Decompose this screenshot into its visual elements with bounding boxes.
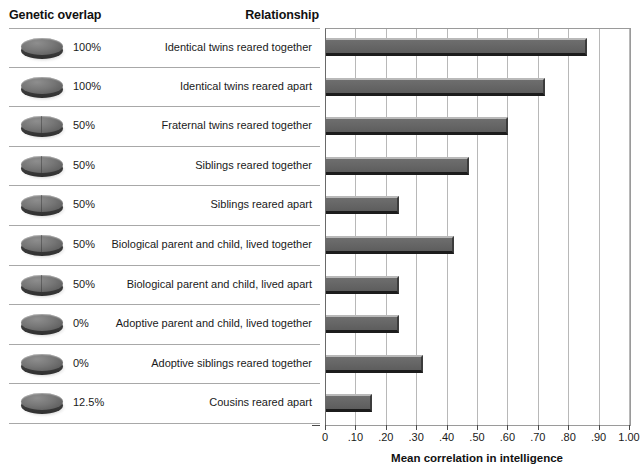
genetic-overlap-coin-icon [20,233,66,259]
genetic-overlap-value: 50% [73,238,95,250]
axis-tick [507,425,508,430]
coin-top [21,275,63,292]
relationship-label: Biological parent and child, lived apart [127,278,312,290]
genetic-overlap-coin-icon [20,36,66,62]
axis-tick [355,425,356,430]
coin-split-line [41,275,42,292]
genetic-overlap-coin-icon [20,352,66,378]
genetic-overlap-coin-icon [20,391,66,417]
coin-top [21,354,63,371]
genetic-overlap-coin-icon [20,193,66,219]
bar [326,355,423,373]
x-axis-title: Mean correlation in intelligence [325,452,629,464]
header-genetic-overlap: Genetic overlap [9,8,101,22]
axis-tick-label: .80 [561,431,576,443]
coin-top [21,156,63,173]
bar [326,38,587,56]
genetic-overlap-value: 100% [73,41,101,53]
bar [326,394,372,412]
bar [326,315,399,333]
relationship-label: Adoptive siblings reared together [151,357,312,369]
relationship-label: Adoptive parent and child, lived togethe… [116,317,312,329]
axis-tick [477,425,478,430]
genetic-overlap-coin-icon [20,154,66,180]
relationship-label: Siblings reared apart [210,198,312,210]
bar [326,196,399,214]
table-row: 50%Biological parent and child, lived to… [9,226,320,266]
bar-row [326,385,630,425]
axis-tick-label: .90 [591,431,606,443]
table-row: 50%Siblings reared together [9,147,320,187]
axis-tick-label: .20 [378,431,393,443]
genetic-overlap-coin-icon [20,114,66,140]
relationship-table: 100%Identical twins reared together100%I… [9,28,320,424]
x-axis-tick-labels: 0.10.20.30.40.50.60.70.80.901.00 [0,431,641,449]
genetic-overlap-value: 50% [73,119,95,131]
bar-row [326,148,630,188]
bar [326,236,454,254]
table-row: 100%Identical twins reared together [9,28,320,68]
bar [326,157,469,175]
table-row: 12.5%Cousins reared apart [9,384,320,424]
table-row: 100%Identical twins reared apart [9,68,320,108]
bar [326,276,399,294]
genetic-overlap-value: 0% [73,357,89,369]
relationship-label: Fraternal twins reared together [162,119,312,131]
relationship-label: Identical twins reared apart [180,80,312,92]
bar-row [326,346,630,386]
axis-tick-label: 1.00 [618,431,639,443]
bar-row [326,29,630,69]
genetic-overlap-coin-icon [20,75,66,101]
bar-chart-plot-area [325,28,631,426]
bar-row [326,227,630,267]
axis-origin-dash [312,425,320,426]
genetic-overlap-value: 12.5% [73,396,104,408]
genetic-overlap-value: 50% [73,198,95,210]
axis-tick [538,425,539,430]
axis-tick [416,425,417,430]
axis-tick-label: .40 [439,431,454,443]
axis-tick-label: .60 [500,431,515,443]
relationship-label: Siblings reared together [195,159,312,171]
coin-top [21,235,63,252]
intelligence-correlation-figure: Genetic overlap Relationship 100%Identic… [0,0,641,472]
axis-tick-label: .50 [469,431,484,443]
axis-tick-label: .30 [409,431,424,443]
genetic-overlap-value: 50% [73,278,95,290]
header-relationship: Relationship [229,8,319,22]
bar-row [326,306,630,346]
axis-tick [386,425,387,430]
coin-split-line [41,195,42,212]
bar [326,78,545,96]
table-row: 50%Biological parent and child, lived ap… [9,266,320,306]
genetic-overlap-coin-icon [20,273,66,299]
axis-tick [325,425,326,430]
coin-split-line [41,116,42,133]
axis-tick [447,425,448,430]
table-row: 0%Adoptive parent and child, lived toget… [9,305,320,345]
table-row: 50%Fraternal twins reared together [9,107,320,147]
coin-split-line [41,235,42,252]
relationship-label: Identical twins reared together [165,41,312,53]
table-row: 0%Adoptive siblings reared together [9,345,320,385]
axis-tick-label: .10 [348,431,363,443]
bar-row [326,108,630,148]
axis-tick [599,425,600,430]
genetic-overlap-value: 0% [73,317,89,329]
table-row: 50%Siblings reared apart [9,186,320,226]
genetic-overlap-value: 50% [73,159,95,171]
genetic-overlap-coin-icon [20,312,66,338]
bar [326,117,508,135]
genetic-overlap-value: 100% [73,80,101,92]
axis-tick-label: 0 [322,431,328,443]
bar-row [326,267,630,307]
relationship-label: Biological parent and child, lived toget… [111,238,312,250]
relationship-label: Cousins reared apart [209,396,312,408]
coin-split-line [41,156,42,173]
axis-tick-label: .70 [530,431,545,443]
axis-tick [568,425,569,430]
coin-top [21,77,63,94]
bar-row [326,69,630,109]
bar-row [326,187,630,227]
coin-top [21,38,63,55]
